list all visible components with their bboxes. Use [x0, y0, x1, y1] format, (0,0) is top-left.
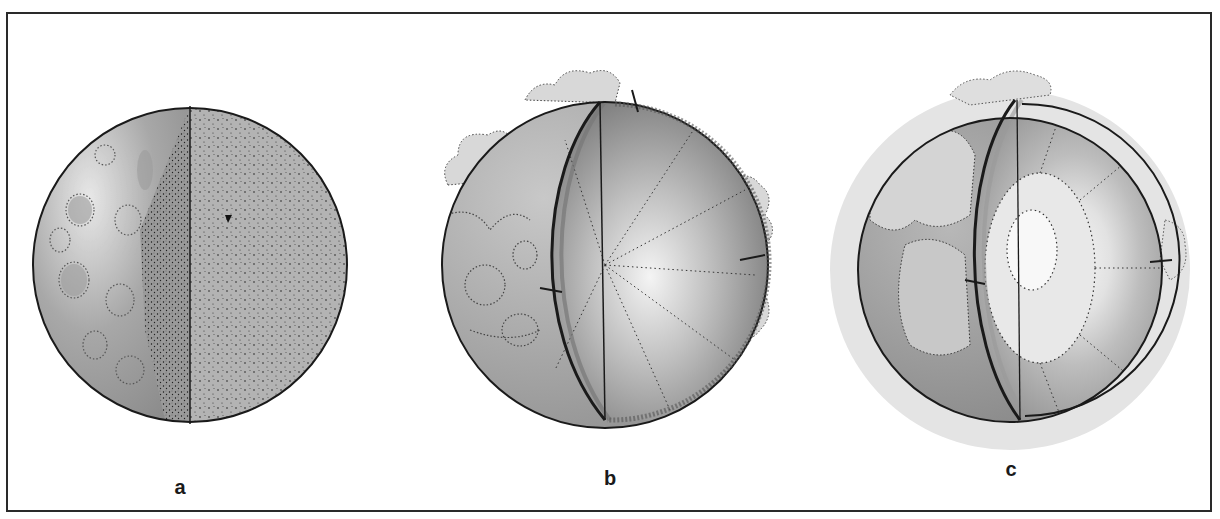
panel-b [400, 0, 820, 519]
panel-label-b: b [595, 467, 625, 490]
sphere-b-illustration [400, 0, 820, 519]
panel-label-c: c [996, 458, 1026, 481]
panel-c [810, 0, 1220, 519]
sphere-c-illustration [810, 0, 1220, 519]
panel-a [0, 0, 400, 519]
panel-label-a: a [165, 476, 195, 499]
sphere-a-illustration [0, 0, 400, 519]
